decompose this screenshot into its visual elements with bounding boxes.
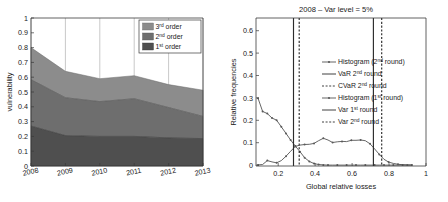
- legend-marker-icon-2: [328, 97, 330, 99]
- right-ytick-3: 0.3: [243, 94, 253, 103]
- right-ytick-0: 0: [249, 161, 253, 170]
- left-ytick-1: 0.1: [18, 147, 28, 156]
- left-xtick-2009: 2009: [56, 165, 74, 177]
- right-chart-svg: 2008 – Var level = 5%: [224, 0, 448, 202]
- left-ytick-10: 1: [24, 14, 28, 23]
- right-legend-label-0: Histogram (2nd round): [338, 58, 405, 66]
- left-y-axis-label: vulnerability: [5, 72, 14, 111]
- right-xtick-2: 0.6: [347, 169, 357, 178]
- left-ytick-7: 0.7: [18, 58, 28, 67]
- left-ytick-9: 0.9: [18, 28, 28, 37]
- left-legend-swatch-2nd: [143, 33, 154, 40]
- right-xtick-0: 0.2: [273, 169, 283, 178]
- right-legend-label-4: Var 1st round: [338, 106, 377, 113]
- left-legend-swatch-1st: [143, 43, 154, 50]
- left-ytick-4: 0.4: [18, 102, 28, 111]
- right-xtick-3: 0.8: [384, 169, 394, 178]
- left-legend: 3rd order 2nd order 1st order: [139, 20, 201, 53]
- left-xtick-2013: 2013: [194, 165, 212, 177]
- left-ytick-5: 0.5: [18, 88, 28, 97]
- right-ytick-5: 0.5: [243, 49, 253, 58]
- right-legend-label-5: Var 2nd round: [338, 118, 379, 125]
- left-xtick-2012: 2012: [159, 165, 177, 177]
- left-xtick-2010: 2010: [91, 165, 109, 177]
- left-chart-svg: 0 0.1 0.2 0.3 0.4 0.5 0.6 0.7 0.8 0.9 1: [0, 0, 224, 202]
- right-xtick-1: 0.4: [310, 169, 320, 178]
- left-ytick-8: 0.8: [18, 43, 28, 52]
- right-ytick-4: 0.4: [243, 71, 253, 80]
- right-ytick-2: 0.2: [243, 116, 253, 125]
- right-ytick-6: 0.6: [243, 26, 253, 35]
- left-legend-swatch-3rd: [143, 23, 154, 30]
- left-ytick-6: 0.6: [18, 73, 28, 82]
- right-plot-background: [256, 18, 426, 166]
- left-ytick-3: 0.3: [18, 117, 28, 126]
- right-legend-label-3: Histogram (1st round): [338, 94, 403, 102]
- right-x-axis-label: Global relative losses: [306, 182, 377, 191]
- right-y-axis-label: Relative frequencies: [229, 58, 238, 125]
- left-chart-panel: 0 0.1 0.2 0.3 0.4 0.5 0.6 0.7 0.8 0.9 1: [0, 0, 224, 202]
- figure-root: 0 0.1 0.2 0.3 0.4 0.5 0.6 0.7 0.8 0.9 1: [0, 0, 448, 202]
- right-chart-title: 2008 – Var level = 5%: [299, 5, 373, 14]
- left-xtick-2011: 2011: [125, 166, 142, 178]
- left-xtick-2008: 2008: [22, 165, 40, 177]
- right-chart-panel: 2008 – Var level = 5%: [224, 0, 448, 202]
- left-ytick-2: 0.2: [18, 132, 28, 141]
- right-ytick-1: 0.1: [243, 138, 253, 147]
- legend-marker-icon: [328, 61, 330, 63]
- right-xtick-4: 1: [424, 169, 428, 178]
